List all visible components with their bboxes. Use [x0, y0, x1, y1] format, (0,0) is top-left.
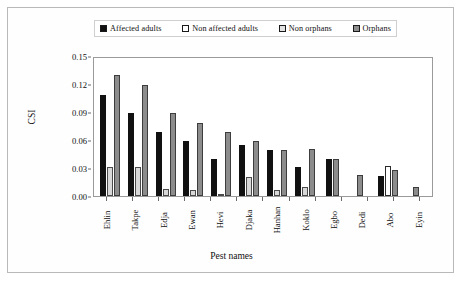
bar [107, 167, 113, 196]
bar [267, 150, 273, 196]
bar-group [263, 58, 291, 196]
legend-item: Non orphans [279, 24, 332, 33]
bar [135, 167, 141, 196]
y-tick-mark [88, 85, 91, 86]
y-tick-mark [88, 57, 91, 58]
x-category-label: Abo [376, 200, 404, 248]
plot-area-wrapper: 0.150.120.090.060.030.00 [64, 57, 433, 197]
x-category-text: Eyin [414, 212, 424, 228]
chart-legend: Affected adultsNon affected adultsNon or… [94, 20, 397, 37]
bar [114, 75, 120, 196]
bar [190, 190, 196, 196]
x-category-text: Djaka [244, 210, 254, 231]
y-tick-mark [88, 197, 91, 198]
bar-group [124, 58, 152, 196]
bar [253, 141, 259, 196]
legend-item: Non affected adults [182, 24, 258, 33]
y-tick-label: 0.03 [72, 164, 87, 174]
bar-group [152, 58, 180, 196]
legend-item: Orphans [353, 24, 391, 33]
bar [211, 159, 217, 196]
plot-area [93, 57, 433, 197]
bar [142, 85, 148, 196]
bar [295, 167, 301, 196]
x-category-label: Hevi [206, 200, 234, 248]
bar-group [402, 58, 430, 196]
legend-swatch-icon [279, 25, 286, 32]
x-category-text: Koklo [300, 209, 310, 230]
legend-label: Affected adults [110, 24, 162, 33]
chart-figure: Affected adultsNon affected adultsNon or… [7, 7, 454, 273]
y-tick-mark [88, 169, 91, 170]
y-tick-label: 0.06 [72, 136, 87, 146]
x-category-text: Ewan [187, 210, 197, 230]
bar-groups [94, 58, 432, 196]
legend-label: Non affected adults [192, 24, 258, 33]
x-category-label: Takpe [121, 200, 149, 248]
bar-group [374, 58, 402, 196]
bar [378, 176, 384, 196]
bar [197, 123, 203, 196]
bar-group [96, 58, 124, 196]
bar-group [346, 58, 374, 196]
legend-item: Affected adults [100, 24, 162, 33]
x-category-label: Ewan [178, 200, 206, 248]
bar [183, 141, 189, 196]
bar [100, 95, 106, 196]
x-category-label: Dedi [348, 200, 376, 248]
bar [302, 187, 308, 196]
y-tick-label: 0.12 [72, 80, 87, 90]
y-tick-label: 0.15 [72, 52, 87, 62]
y-tick-label: 0.09 [72, 108, 87, 118]
x-category-text: Egbo [329, 211, 339, 229]
bar-group [179, 58, 207, 196]
y-tick-mark [88, 141, 91, 142]
bar [218, 194, 224, 196]
x-category-text: Abo [385, 213, 395, 228]
legend-swatch-icon [100, 25, 107, 32]
y-tick-mark [88, 113, 91, 114]
bar [281, 150, 287, 196]
x-category-text: Hanhan [272, 207, 282, 234]
x-category-label: Edja [150, 200, 178, 248]
x-category-label: Ehlin [93, 200, 121, 248]
bar-group [291, 58, 319, 196]
x-category-text: Dedi [357, 212, 367, 229]
bar [413, 187, 419, 196]
legend-label: Non orphans [289, 24, 332, 33]
bar [274, 190, 280, 196]
bar [392, 170, 398, 196]
x-category-label: Djaka [235, 200, 263, 248]
y-axis-title: CSI [27, 87, 37, 147]
bar [357, 175, 363, 196]
x-category-text: Edja [159, 212, 169, 228]
bar-group [207, 58, 235, 196]
x-category-label: Eyin [405, 200, 433, 248]
bar [385, 166, 391, 196]
legend-swatch-icon [353, 25, 360, 32]
bar [128, 113, 134, 196]
x-category-label: Koklo [291, 200, 319, 248]
bar [239, 145, 245, 196]
bar [170, 113, 176, 196]
legend-swatch-icon [182, 25, 189, 32]
x-axis-category-labels: EhlinTakpeEdjaEwanHeviDjakaHanhanKokloEg… [93, 200, 433, 248]
bar [225, 132, 231, 196]
x-category-text: Takpe [130, 210, 140, 231]
bar-group [319, 58, 347, 196]
bar [163, 189, 169, 196]
bar [246, 177, 252, 196]
bar [156, 132, 162, 196]
bar-group [235, 58, 263, 196]
bar [326, 159, 332, 196]
x-category-label: Egbo [320, 200, 348, 248]
x-category-text: Ehlin [102, 211, 112, 230]
legend-label: Orphans [363, 24, 391, 33]
x-category-text: Hevi [215, 212, 225, 229]
x-axis-title: Pest names [8, 251, 455, 261]
bar [309, 149, 315, 196]
bar [333, 159, 339, 196]
y-axis-ticks: 0.150.120.090.060.030.00 [64, 57, 91, 197]
x-category-label: Hanhan [263, 200, 291, 248]
y-tick-label: 0.00 [72, 192, 87, 202]
